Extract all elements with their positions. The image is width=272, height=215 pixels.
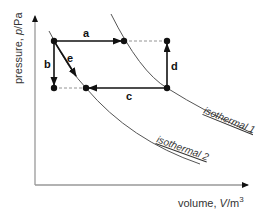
pv-diagram: pressure, p/Pa volume, V/m3 isothermal 1…: [0, 0, 272, 215]
process-c-label: c: [126, 90, 132, 102]
process-e-label: e: [67, 52, 73, 64]
state-point-b-end: [51, 85, 57, 91]
process-d-label: d: [171, 60, 178, 72]
x-axis-label: volume, V/m3: [178, 195, 244, 209]
state-point-start: [51, 38, 57, 44]
y-axis-label: pressure, p/Pa: [12, 12, 24, 84]
state-point-c-start: [164, 85, 170, 91]
state-point-a-end: [121, 38, 127, 44]
isothermal-1-label: isothermal 1: [202, 105, 257, 136]
process-b-label: b: [44, 58, 51, 70]
isothermal-2-label: isothermal 2: [155, 134, 210, 163]
process-a-label: a: [83, 27, 90, 39]
state-point-d-end: [164, 38, 170, 44]
state-point-c-end: [83, 85, 89, 91]
